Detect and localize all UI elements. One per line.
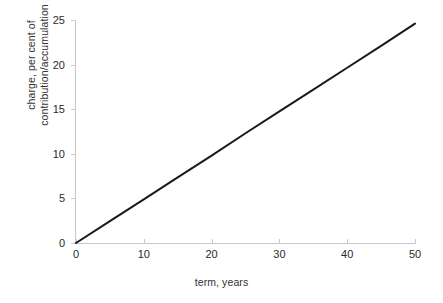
y-tick-label: 25 [53, 14, 65, 26]
y-tick-label: 0 [59, 237, 65, 249]
y-tick-label: 15 [53, 103, 65, 115]
y-tick-mark [71, 65, 75, 66]
y-tick-mark [71, 20, 75, 21]
x-tick-label: 50 [409, 248, 421, 260]
series-charge-polyline [76, 24, 415, 243]
y-tick-label: 10 [53, 148, 65, 160]
x-tick-label: 10 [138, 248, 150, 260]
y-tick-mark [71, 154, 75, 155]
x-tick-label: 30 [273, 248, 285, 260]
y-tick-mark [71, 109, 75, 110]
data-series-line [76, 20, 415, 243]
x-tick-label: 20 [205, 248, 217, 260]
plot-area: 0510152025 01020304050 [76, 20, 415, 243]
x-tick-label: 0 [73, 248, 79, 260]
chart-figure: charge, per cent of contribution/accumul… [0, 0, 443, 303]
y-tick-mark [71, 243, 75, 244]
x-tick-label: 40 [341, 248, 353, 260]
y-axis-title-line2: contribution/accumulation [38, 4, 51, 126]
y-axis-title-line1: charge, per cent of [25, 20, 38, 109]
y-tick-mark [71, 198, 75, 199]
x-tick-mark [415, 239, 416, 243]
x-axis-line [75, 243, 416, 244]
x-axis-title: term, years [0, 276, 443, 288]
y-tick-label: 5 [59, 192, 65, 204]
y-axis-title: charge, per cent of contribution/accumul… [21, 0, 55, 165]
y-tick-label: 20 [53, 59, 65, 71]
